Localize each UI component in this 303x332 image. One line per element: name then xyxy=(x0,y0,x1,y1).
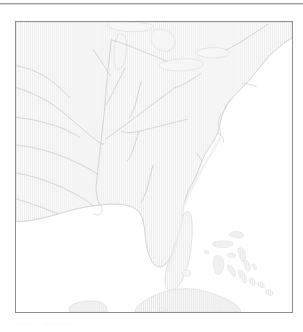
lake-okeechobee xyxy=(183,270,191,277)
lake-ontario xyxy=(196,48,229,58)
figure-caption: Figure 1. Study area xyxy=(16,320,286,328)
isla-de-la-juventud xyxy=(159,308,168,311)
map-canvas xyxy=(16,22,292,312)
andros-island xyxy=(214,256,224,275)
bimini-islands xyxy=(204,250,208,254)
page-top-rule-shadow xyxy=(0,4,303,5)
new-providence xyxy=(227,253,235,258)
map-figure-frame xyxy=(15,21,293,313)
